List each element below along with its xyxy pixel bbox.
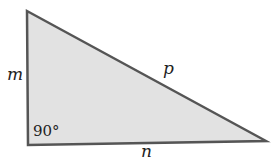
label-hypotenuse-p: p: [163, 58, 174, 78]
label-vertical-side-m: m: [7, 64, 23, 84]
triangle-figure: [0, 0, 272, 167]
right-triangle: [27, 11, 266, 145]
label-base-n: n: [141, 141, 152, 161]
label-right-angle: 90°: [33, 122, 60, 140]
